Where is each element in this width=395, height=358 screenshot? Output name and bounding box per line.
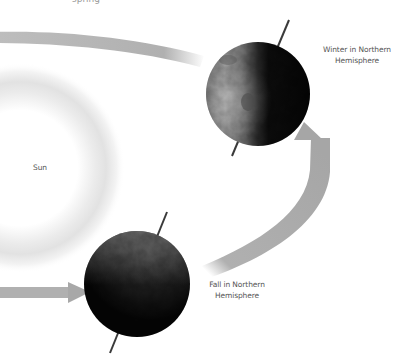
winter-label: Winter in Northern Hemisphere bbox=[318, 44, 395, 66]
fall-label-line1: Fall in Northern bbox=[198, 279, 276, 290]
orbit-arrow-right bbox=[202, 122, 330, 279]
sun-label: Sun bbox=[28, 162, 52, 173]
orbit-arrow-top bbox=[0, 32, 204, 67]
clipped-caption-text: spring bbox=[72, 0, 100, 4]
fall-label-line2: Hemisphere bbox=[198, 290, 276, 301]
earth-winter bbox=[192, 20, 310, 156]
fall-label: Fall in Northern Hemisphere bbox=[198, 279, 276, 301]
orbit-arrow-bottom bbox=[0, 282, 90, 303]
winter-label-line2: Hemisphere bbox=[318, 55, 395, 66]
winter-label-line1: Winter in Northern bbox=[318, 44, 395, 55]
